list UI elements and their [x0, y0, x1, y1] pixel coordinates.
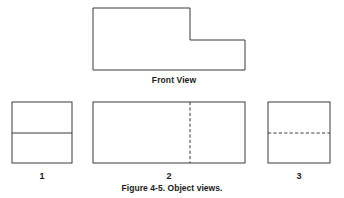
view-2-number-label: 2 — [166, 172, 171, 181]
view-3-number-label: 3 — [296, 172, 301, 181]
technical-drawing-canvas — [0, 0, 344, 198]
figure-object-views: Front View 1 2 3 Figure 4-5. Object view… — [0, 0, 344, 198]
front-view-outline — [93, 8, 245, 70]
figure-caption: Figure 4-5. Object views. — [122, 184, 223, 193]
view-1-number-label: 1 — [39, 172, 44, 181]
front-view-label: Front View — [152, 76, 196, 85]
view-3-outline — [268, 102, 330, 163]
view-2-outline — [93, 102, 245, 163]
